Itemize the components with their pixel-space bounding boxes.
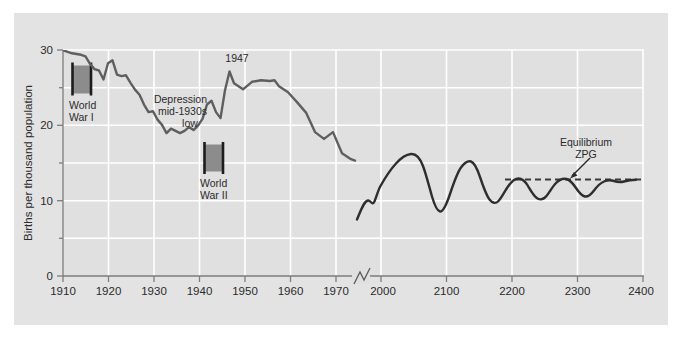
peak-1947-label: 1947: [225, 52, 249, 64]
x-tick-label-1960: 1960: [278, 285, 304, 297]
y-tick-marks: [57, 50, 63, 276]
world-war-2-band: [205, 142, 224, 174]
x-tick-label-1910: 1910: [50, 285, 76, 297]
x-tick-label-2100: 2100: [434, 285, 460, 297]
x-tick-label-1920: 1920: [96, 285, 122, 297]
world-war-1-label: World War I: [69, 99, 96, 123]
birth-rate-chart: 30 20 10 0 1910 1920 1930 1940 1950 1960…: [0, 0, 681, 338]
figure-container: 30 20 10 0 1910 1920 1930 1940 1950 1960…: [0, 0, 681, 338]
world-war-2-label-line-2: War II: [200, 189, 228, 201]
world-war-1-label-line-1: World: [69, 99, 96, 111]
x-tick-label-1950: 1950: [232, 285, 258, 297]
axis-break-zigzag-icon: [352, 268, 370, 284]
depression-label-line-2: mid-1930s: [158, 105, 207, 117]
x-tick-label-1930: 1930: [141, 285, 167, 297]
x-tick-label-2200: 2200: [499, 285, 525, 297]
x-tick-label-1970: 1970: [323, 285, 349, 297]
world-war-1-label-line-2: War I: [69, 111, 94, 123]
equilibrium-zpg-label-line-1: Equilibrium: [560, 136, 612, 148]
y-tick-label-30: 30: [40, 44, 53, 56]
x-tick-label-2000: 2000: [370, 285, 396, 297]
world-war-2-label-line-1: World: [200, 177, 227, 189]
world-war-2-label: World War II: [200, 177, 228, 201]
x-tick-label-2300: 2300: [565, 285, 591, 297]
depression-label-line-3: low: [182, 117, 198, 129]
y-tick-label-10: 10: [40, 195, 53, 207]
x-tick-label-1940: 1940: [187, 285, 213, 297]
world-war-1-band: [73, 63, 92, 96]
equilibrium-zpg-label-line-2: ZPG: [575, 148, 597, 160]
depression-label-line-1: Depression: [154, 93, 207, 105]
y-tick-label-20: 20: [40, 119, 53, 131]
y-axis-title: Births per thousand population: [22, 85, 34, 241]
x-tick-label-2400: 2400: [628, 285, 654, 297]
y-tick-label-0: 0: [47, 270, 53, 282]
